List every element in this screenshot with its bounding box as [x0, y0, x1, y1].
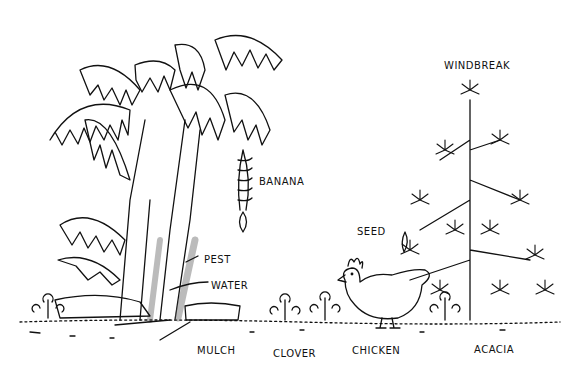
label-mulch: MULCH: [197, 345, 236, 356]
illustration: [0, 0, 577, 386]
label-acacia: ACACIA: [474, 344, 514, 355]
chicken: [338, 258, 429, 328]
label-pest: PEST: [204, 254, 231, 265]
label-seed: SEED: [357, 226, 386, 237]
label-clover: CLOVER: [273, 348, 316, 359]
label-water: WATER: [211, 280, 248, 291]
label-windbreak: WINDBREAK: [444, 60, 510, 71]
banana-plant: [50, 36, 282, 341]
ground: [20, 320, 560, 338]
seed-pod: [402, 232, 407, 252]
label-chicken: CHICKEN: [352, 345, 400, 356]
clover-plants: [32, 292, 460, 320]
label-banana: BANANA: [259, 176, 304, 187]
